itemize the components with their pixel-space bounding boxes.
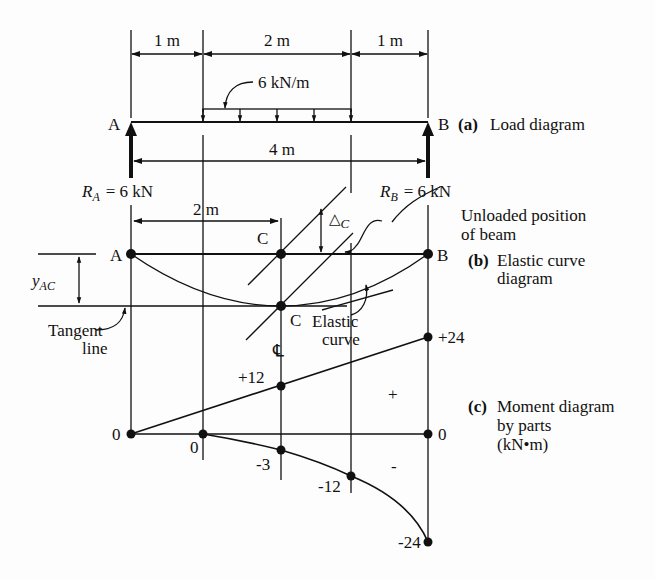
point-a — [126, 249, 136, 259]
m-plus-12: +12 — [238, 368, 265, 387]
panel-c-tag: (c) — [468, 397, 487, 416]
label-b: B — [437, 246, 448, 265]
centerline-symbol: ℄ — [272, 341, 284, 360]
load-intensity: 6 kN/m — [258, 73, 309, 92]
m-minus-sign: - — [391, 457, 397, 476]
load-leader — [225, 82, 253, 108]
panel-b-title-1: Elastic curve — [497, 251, 585, 270]
m-plus-sign: + — [388, 385, 398, 404]
tangent-label-1: Tangent — [48, 321, 103, 340]
elastic-curve — [131, 254, 428, 306]
panel-c-title-1: Moment diagram — [497, 397, 615, 416]
m-minus-3: -3 — [256, 455, 270, 474]
dim-half: 2 m — [193, 200, 219, 219]
m-plus-24: +24 — [438, 328, 465, 347]
m-minus-12: -12 — [318, 477, 341, 496]
reaction-b-arrow-icon — [422, 122, 434, 136]
point-c-top — [276, 249, 286, 259]
support-b-label: B — [438, 115, 449, 134]
figure-svg: 1 m 2 m 1 m 6 kN/m A B 4 m (a) Load diag… — [0, 0, 655, 580]
elastic-label-1: Elastic — [312, 312, 359, 331]
label-c-top: C — [257, 229, 268, 248]
elastic-curve-diagram — [38, 187, 440, 340]
panel-c-title-3: (kN•m) — [497, 435, 548, 454]
unloaded-label-2: of beam — [461, 225, 516, 244]
unloaded-label-1: Unloaded position — [461, 206, 587, 225]
panel-a-tag: (a) — [458, 115, 478, 134]
panel-b-title-2: diagram — [497, 269, 553, 288]
panel-c-title-2: by parts — [497, 416, 551, 435]
moment-points — [127, 333, 433, 547]
m-zero-right: 0 — [438, 425, 447, 444]
point-c-bottom — [276, 301, 286, 311]
m-minus-24: -24 — [398, 533, 421, 552]
dim-span-1: 1 m — [154, 31, 180, 50]
vertical-grid-lines — [131, 30, 428, 542]
point-b — [423, 249, 433, 259]
panel-a-title: Load diagram — [490, 115, 585, 134]
elastic-label-2: curve — [322, 330, 360, 349]
reaction-a-label: RA= 6 kN — [81, 182, 153, 204]
moment-diagram — [131, 337, 428, 542]
m-zero-left: 0 — [112, 425, 121, 444]
panel-b-tag: (b) — [468, 251, 489, 270]
dim-span-3: 1 m — [377, 31, 403, 50]
beam-deflection-figure: 1 m 2 m 1 m 6 kN/m A B 4 m (a) Load diag… — [0, 0, 655, 580]
label-a: A — [110, 246, 123, 265]
delta-c-label: △C — [329, 211, 350, 231]
reaction-a-arrow-icon — [125, 122, 137, 136]
m-zero-mid: 0 — [190, 438, 199, 457]
dim-total: 4 m — [269, 140, 295, 159]
label-c-bottom: C — [290, 311, 301, 330]
y-ac-label: yAC — [30, 271, 56, 293]
dim-span-2: 2 m — [264, 31, 290, 50]
moment-negative-curve — [203, 434, 428, 542]
support-a-label: A — [108, 115, 121, 134]
tangent-label-2: line — [82, 339, 108, 358]
